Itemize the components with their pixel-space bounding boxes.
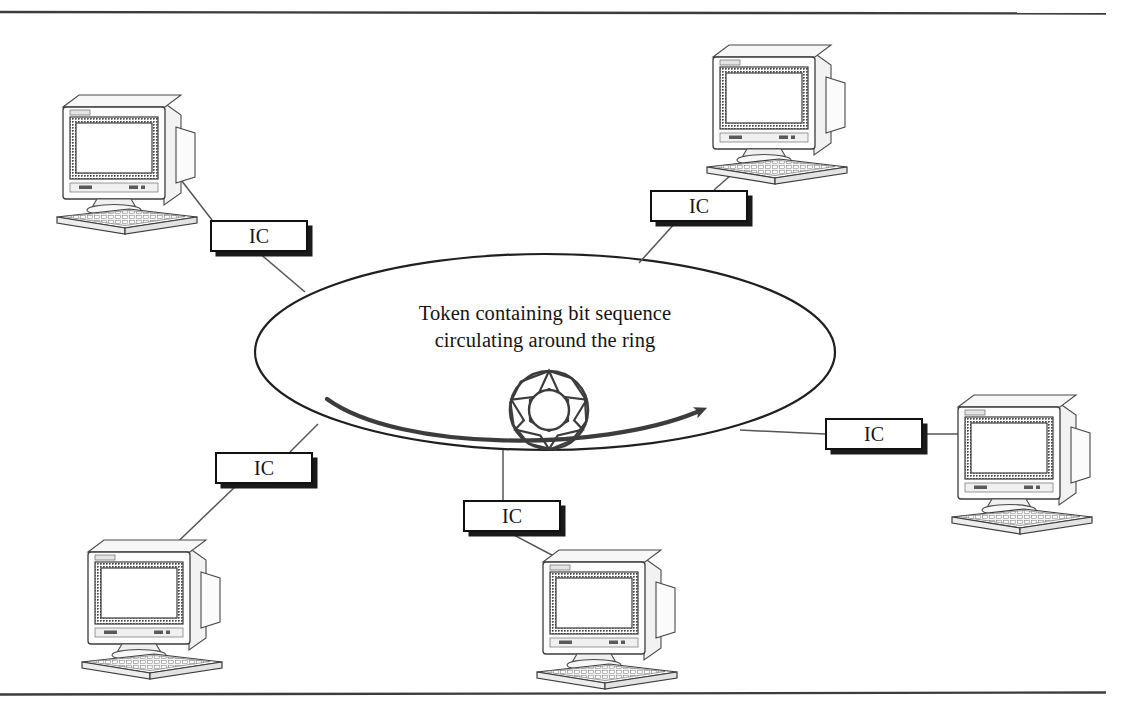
top-horizontal-rule	[0, 12, 1106, 14]
ic-box-bottom-left[interactable]: IC	[215, 452, 313, 484]
link-workstation-top-left-to-ic	[178, 176, 212, 220]
ic-box-bottom-mid[interactable]: IC	[463, 500, 561, 532]
workstation-top-right	[707, 45, 847, 184]
ic-box-top-left[interactable]: IC	[210, 220, 308, 252]
link-ic-top-right-to-ring	[639, 222, 676, 263]
workstation-bottom-left	[82, 540, 222, 679]
ic-box-label: IC	[864, 424, 884, 444]
token-star-burst	[510, 371, 588, 449]
ring-caption: Token containing bit sequence circulatin…	[340, 300, 750, 353]
link-ic-bottom-left-to-ring	[290, 424, 318, 452]
ic-box-label: IC	[502, 506, 522, 526]
ic-box-label: IC	[249, 226, 269, 246]
link-ic-right-to-ring	[740, 430, 825, 434]
ic-box-label: IC	[254, 458, 274, 478]
ic-box-right[interactable]: IC	[825, 418, 923, 450]
ic-box-top-right[interactable]: IC	[650, 190, 748, 222]
workstation-right	[952, 395, 1092, 534]
workstation-top-left	[57, 95, 197, 234]
ic-box-label: IC	[689, 196, 709, 216]
link-ic-top-left-to-ring	[258, 252, 305, 292]
figure-canvas: Token containing bit sequence circulatin…	[0, 0, 1141, 715]
workstation-bottom-mid	[537, 550, 677, 689]
bottom-horizontal-rule	[0, 693, 1106, 695]
diagram-svg	[0, 0, 1141, 715]
